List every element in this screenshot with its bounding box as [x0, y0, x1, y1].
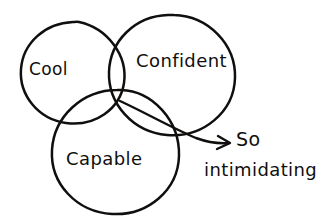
annotation-text-line-2: intimidating: [204, 159, 317, 180]
venn-diagram-page: Cool Confident Capable So intimidating: [0, 0, 329, 224]
circle-label-confident: Confident: [136, 50, 227, 71]
circle-label-cool: Cool: [29, 59, 68, 79]
circle-label-capable: Capable: [66, 148, 142, 169]
circle-confident[interactable]: [109, 15, 235, 135]
venn-diagram-canvas: [0, 0, 329, 224]
annotation-text-line-1: So: [236, 128, 261, 150]
